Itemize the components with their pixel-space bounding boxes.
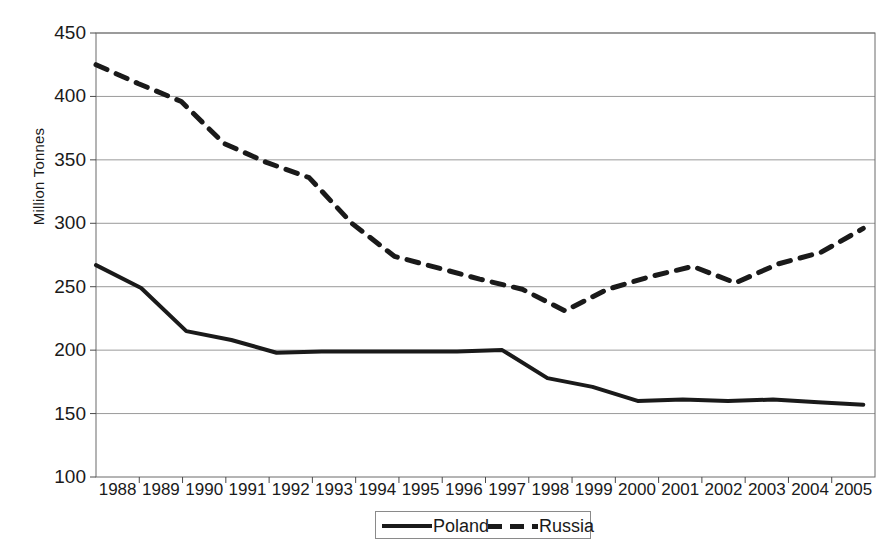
series-line-russia xyxy=(96,65,863,311)
legend-label-russia: Russia xyxy=(539,517,594,535)
legend-label-poland: Poland xyxy=(433,517,489,535)
legend-line-dashed-icon xyxy=(488,524,538,529)
legend-item-russia: Russia xyxy=(488,512,594,540)
series-line-poland xyxy=(96,265,863,405)
plot-frame xyxy=(96,33,875,477)
legend-item-poland: Poland xyxy=(382,512,489,540)
plot-area xyxy=(0,0,895,553)
line-chart: Million Tonnes 100150200250300350400450 … xyxy=(0,0,895,553)
legend-line-solid-icon xyxy=(382,524,432,528)
chart-legend: Poland Russia xyxy=(375,511,591,539)
